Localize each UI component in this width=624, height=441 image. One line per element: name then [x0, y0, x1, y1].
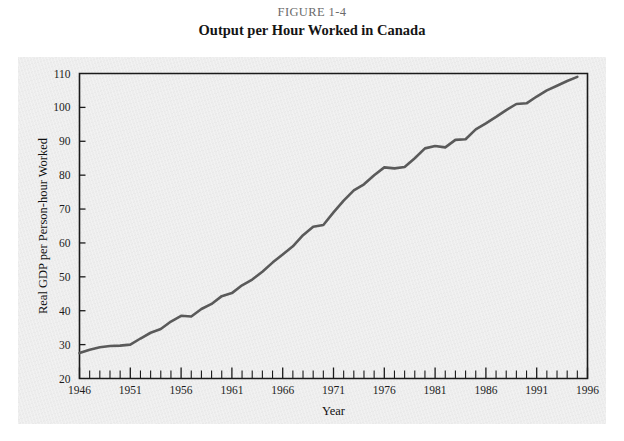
y-tick-label: 110: [54, 68, 71, 80]
y-axis-ticks: [80, 107, 86, 344]
y-tick-label: 70: [59, 203, 71, 215]
line-chart: 2030405060708090100110 19461951195619611…: [0, 0, 624, 441]
y-tick-label: 100: [53, 101, 71, 113]
plot-frame: [80, 74, 588, 379]
y-tick-label: 30: [59, 339, 71, 351]
x-tick-label: 1976: [373, 384, 396, 396]
x-tick-label: 1961: [220, 384, 243, 396]
y-tick-label: 80: [59, 169, 71, 181]
y-axis-title: Real GDP per Person-hour Worked: [36, 137, 50, 314]
x-axis-minor-ticks: [80, 368, 588, 379]
x-axis-tick-labels: 1946195119561961196619711976198119861991…: [68, 384, 599, 396]
y-tick-label: 40: [59, 305, 71, 317]
y-tick-label: 50: [59, 271, 71, 283]
x-tick-label: 1996: [576, 384, 599, 396]
x-axis-title: Year: [322, 404, 346, 418]
x-tick-label: 1981: [424, 384, 447, 396]
x-tick-label: 1951: [119, 384, 142, 396]
x-tick-label: 1966: [271, 384, 294, 396]
x-tick-label: 1971: [322, 384, 345, 396]
x-tick-label: 1991: [525, 384, 548, 396]
x-tick-label: 1956: [170, 384, 193, 396]
x-tick-label: 1946: [68, 384, 91, 396]
data-series-line: [80, 77, 578, 353]
x-tick-label: 1986: [474, 384, 497, 396]
y-tick-label: 90: [59, 135, 71, 147]
y-tick-label: 60: [59, 237, 71, 249]
y-axis-tick-labels: 2030405060708090100110: [53, 68, 71, 385]
figure-root: FIGURE 1-4 Output per Hour Worked in Can…: [0, 0, 624, 441]
